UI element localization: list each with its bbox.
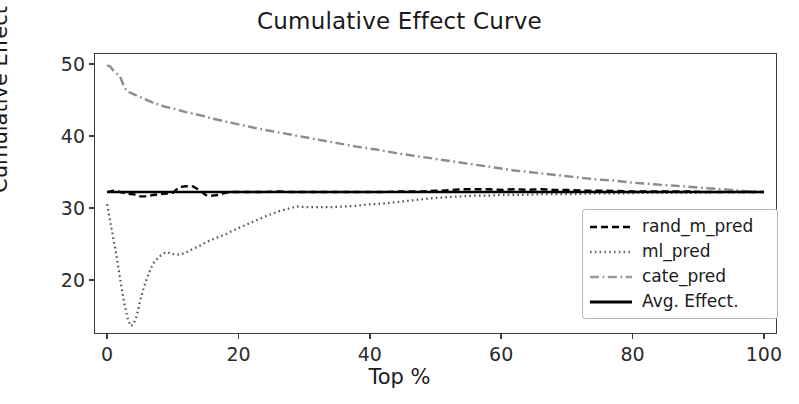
series-line-cate_pred [107,65,764,192]
x-tick-mark [369,334,371,339]
legend-swatch-icon [589,219,633,235]
x-tick-mark [632,334,634,339]
y-tick-mark [89,63,94,65]
x-tick-label: 100 [734,343,794,365]
x-tick-label: 0 [77,343,137,365]
legend-label: rand_m_pred [642,218,753,235]
x-tick-label: 20 [208,343,268,365]
legend-swatch-icon [589,294,633,310]
legend-box[interactable]: rand_m_predml_predcate_predAvg. Effect. [582,209,778,319]
x-tick-mark [500,334,502,339]
y-tick-label: 20 [45,269,85,291]
y-tick-label: 40 [45,125,85,147]
legend-item-ml_pred[interactable]: ml_pred [589,239,771,264]
x-tick-label: 40 [340,343,400,365]
x-tick-mark [238,334,240,339]
legend-label: Avg. Effect. [642,293,739,310]
y-tick-mark [89,207,94,209]
x-tick-label: 60 [471,343,531,365]
legend-item-Avg. Effect.[interactable]: Avg. Effect. [589,289,771,314]
y-tick-mark [89,279,94,281]
legend-swatch-icon [589,244,633,260]
legend-item-cate_pred[interactable]: cate_pred [589,264,771,289]
legend-item-rand_m_pred[interactable]: rand_m_pred [589,214,771,239]
x-axis-label: Top % [0,365,799,389]
y-tick-label: 30 [45,197,85,219]
x-tick-mark [763,334,765,339]
legend-label: cate_pred [642,268,726,285]
x-tick-label: 80 [603,343,663,365]
figure-canvas: Cumulative Effect Curve Cumulative Effec… [0,0,799,404]
y-axis-label: Cumulative Effect [0,6,12,193]
chart-title: Cumulative Effect Curve [0,8,799,34]
legend-swatch-icon [589,269,633,285]
y-tick-label: 50 [45,53,85,75]
legend-label: ml_pred [642,243,710,260]
y-tick-mark [89,135,94,137]
x-tick-mark [106,334,108,339]
